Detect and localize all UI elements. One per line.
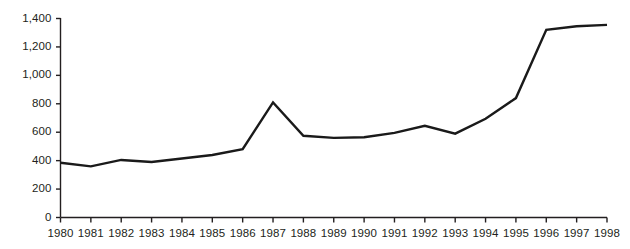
y-axis-tick-label: 800: [0, 97, 52, 109]
x-axis-ticks: [61, 218, 608, 223]
y-axis-tick-label: 0: [0, 211, 52, 223]
y-axis-tick-label: 200: [0, 182, 52, 194]
y-axis-tick-label: 1,200: [0, 40, 52, 52]
y-axis-tick-label: 600: [0, 125, 52, 137]
chart-plot-area: [0, 0, 630, 249]
data-series-line: [61, 25, 608, 166]
y-axis-tick-label: 1,000: [0, 68, 52, 80]
y-axis-tick-label: 1,400: [0, 12, 52, 24]
line-chart: 02004006008001,0001,2001,400 19801981198…: [0, 0, 630, 249]
x-axis-tick-label: 1998: [587, 227, 627, 239]
y-axis-tick-label: 400: [0, 154, 52, 166]
